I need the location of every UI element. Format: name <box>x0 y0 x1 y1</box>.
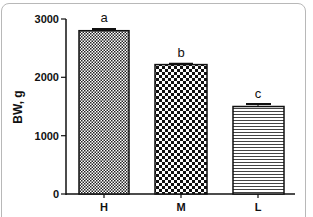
y-tick-label: 0 <box>53 188 59 200</box>
y-tick-label: 1000 <box>35 130 59 142</box>
x-category-label: L <box>255 201 262 213</box>
x-axis: H M L <box>66 194 295 213</box>
significance-letter: b <box>177 45 184 60</box>
bar-h: a <box>79 10 129 194</box>
y-tick-label: 3000 <box>35 13 59 25</box>
bar-m: b <box>155 45 207 194</box>
x-category-label: M <box>176 201 185 213</box>
y-tick-label: 2000 <box>35 71 59 83</box>
significance-letter: a <box>100 10 108 25</box>
y-axis-title: BW, g <box>11 90 25 123</box>
x-category-label: H <box>100 201 108 213</box>
bar-chart: 3000 2000 1000 0 BW, g H M L a b c <box>0 0 313 217</box>
significance-letter: c <box>255 86 262 101</box>
bar-l: c <box>233 86 284 194</box>
y-axis: 3000 2000 1000 0 BW, g <box>11 13 66 200</box>
